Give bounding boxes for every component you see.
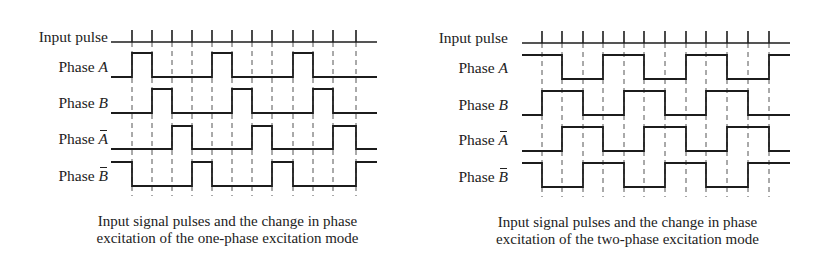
two-phase-diagram: Input pulse Phase A Phase B Phase A Phas…	[0, 0, 813, 278]
waveform-phase-abar	[522, 127, 790, 151]
waveform-phase-b	[522, 91, 790, 115]
caption-two-phase: Input signal pulses and the change in ph…	[455, 214, 800, 248]
caption-line-1: Input signal pulses and the change in ph…	[455, 214, 800, 231]
overbar-b: B	[499, 168, 508, 186]
waveform-phase-bbar	[522, 163, 790, 187]
caption-line-2: excitation of the two-phase excitation m…	[455, 231, 800, 248]
label-input-pulse: Input pulse	[439, 29, 508, 47]
label-phase-a: Phase A	[458, 59, 508, 77]
label-phase-a-bar: Phase A	[458, 131, 508, 149]
waveform-phase-a	[522, 55, 790, 79]
label-phase-b-bar: Phase B	[458, 168, 508, 186]
label-phase-b: Phase B	[458, 96, 508, 114]
overbar-a: A	[499, 131, 508, 149]
